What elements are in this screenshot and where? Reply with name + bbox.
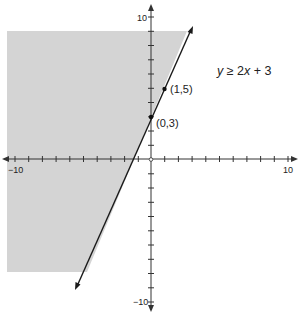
point-1-5 — [162, 87, 166, 91]
x-axis-left-arrow-icon — [2, 156, 9, 162]
line-upper-arrow-icon — [188, 26, 194, 34]
inequality-graph: (1,5) (0,3) y ≥ 2x + 3 10 −10 −10 10 — [0, 0, 299, 313]
origin-marker — [149, 158, 153, 162]
x-axis-right-arrow-icon — [291, 156, 298, 162]
point-1-5-label: (1,5) — [170, 83, 193, 95]
inequality-label: y ≥ 2x + 3 — [216, 64, 272, 78]
y-min-label: −10 — [133, 297, 148, 307]
x-max-label: 10 — [283, 165, 293, 175]
point-0-3-label: (0,3) — [156, 117, 179, 129]
shaded-region — [7, 31, 187, 272]
x-min-label: −10 — [8, 165, 23, 175]
line-lower-arrow-icon — [75, 282, 81, 290]
y-axis-down-arrow-icon — [148, 305, 154, 312]
y-axis-up-arrow-icon — [148, 4, 154, 11]
point-0-3 — [149, 115, 153, 119]
y-max-label: 10 — [137, 13, 147, 23]
